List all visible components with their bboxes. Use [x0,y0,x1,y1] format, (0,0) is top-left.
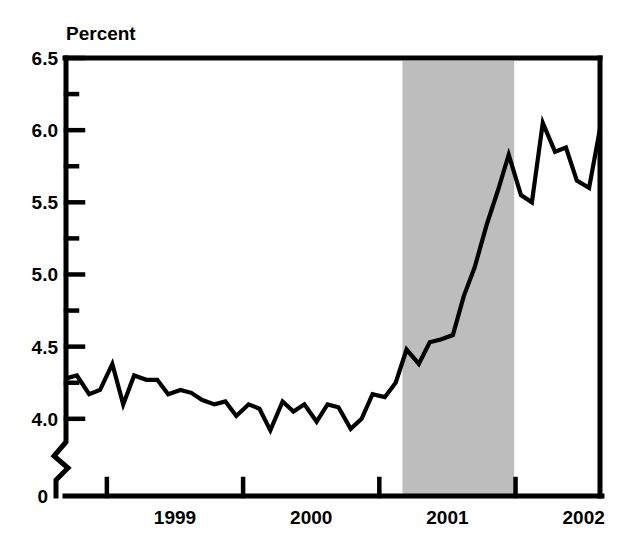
y-tick-label-0: 0 [37,486,48,507]
y-tick-label-4.5: 4.5 [32,337,59,358]
y-tick-label-6.5: 6.5 [32,48,59,69]
y-tick-label-5.0: 5.0 [32,264,58,285]
recession-band-recession [402,61,514,496]
x-tick-label-2001: 2001 [426,507,469,528]
recession-shading-layer [402,61,514,496]
x-tick-label-1999: 1999 [154,507,196,528]
chart-root: 6.56.05.55.04.54.00 1999200020012002 Per… [0,0,632,559]
y-axis-title: Percent [66,23,136,44]
y-tick-label-6.0: 6.0 [32,120,58,141]
chart-background [0,0,632,559]
y-tick-label-5.5: 5.5 [32,192,59,213]
x-tick-label-2000: 2000 [290,507,332,528]
x-tick-label-2002: 2002 [563,507,605,528]
y-tick-label-4.0: 4.0 [32,409,58,430]
unemployment-rate-line-chart: 6.56.05.55.04.54.00 1999200020012002 Per… [0,0,632,559]
